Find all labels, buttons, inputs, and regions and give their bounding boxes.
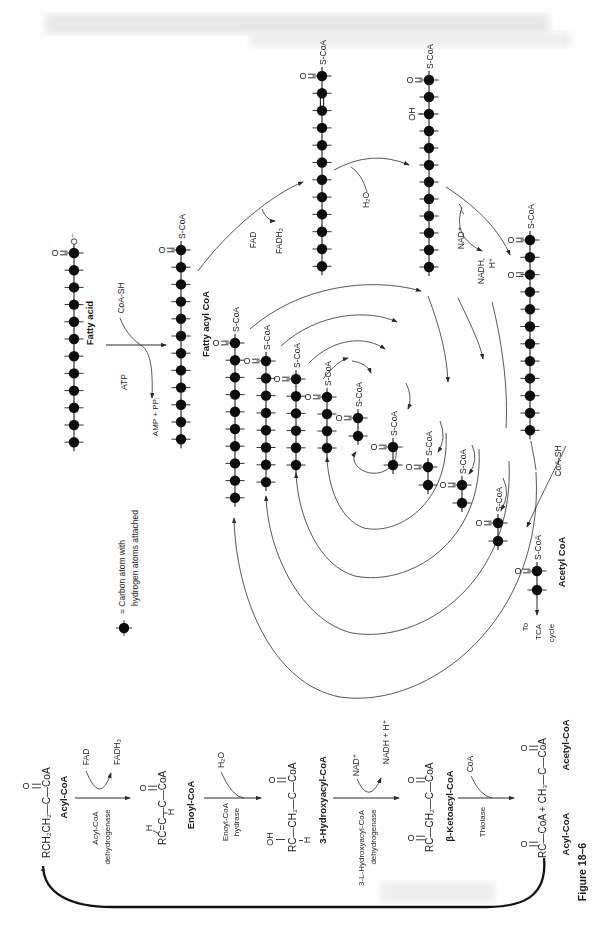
acetyl-coa-label: Acetyl CoA (556, 537, 567, 588)
pathway-coa-label: CoA (465, 755, 475, 772)
pathway-h2o-label: H₂O (216, 752, 226, 768)
enzyme1-line1: Acyl-CoA (91, 811, 100, 845)
step5-o-acetyl: O (520, 743, 527, 753)
ketoacyl-coa-formula: RC—CH₂—C—CoA (424, 762, 435, 852)
step4-o-bottom: O (407, 833, 414, 843)
nadh-label: NADH, (476, 258, 486, 284)
s-coa-label: S-CoA (425, 44, 435, 69)
figure-caption: Figure 18–6 (576, 843, 588, 902)
s-coa-label: S-CoA (424, 431, 434, 456)
enzyme3-line2: dehydrogenase (369, 809, 378, 865)
s-coa-label: S-CoA (533, 535, 543, 560)
hydroxyacyl-coa-chain: S-CoAOOH (406, 44, 438, 276)
step5-o-acyl: O (520, 839, 527, 849)
s-coa-label: S-CoA (458, 449, 468, 474)
enoyl-coa-name: Enoyl-CoA (185, 781, 196, 830)
step2-o: O (139, 783, 146, 793)
acyl-c4-chain: S-CoAO (304, 361, 336, 457)
atp-label: ATP (119, 374, 129, 390)
enoyl-coa-chain: S-CoAO (299, 40, 331, 276)
carbonyl-o-label: O (304, 392, 311, 402)
s-coa-label: S-CoA (526, 204, 536, 229)
to-tca-line3: cycle (547, 623, 556, 642)
product-acetyl-coa-name: Acetyl-CoA (560, 719, 571, 770)
beta-oxidation-figure: O⁻OS-CoAOS-CoAOS-CoAOOHS-CoAOOS-CoAOS-Co… (0, 0, 595, 941)
s-coa-label: S-CoA (494, 487, 504, 512)
step2-h-alpha: H (144, 825, 154, 832)
fatty-acid-label: Fatty acid (84, 301, 95, 346)
acetyl-coa-final: S-CoAO (514, 535, 546, 599)
to-tca-line1: To (521, 622, 530, 631)
carbonyl-o-label: O (243, 356, 250, 366)
step3-o: O (268, 775, 275, 785)
hydroxyacyl-coa-formula: RC—CH₂—C—CoA (287, 762, 298, 852)
carbonyl-o-label: O (273, 374, 280, 384)
s-coa-label: S-CoA (262, 325, 272, 350)
step3-oh: OH (265, 832, 275, 846)
pathway-nad-label: NAD⁺ (351, 754, 361, 776)
spiral-arrows (106, 158, 566, 698)
legend-line1: = Carbon atom with (117, 540, 127, 614)
nad-label: NAD⁺ (456, 227, 466, 249)
keto-o-label: O (507, 270, 514, 280)
carboxylate-o-label: O⁻ (69, 233, 79, 245)
acyl-c10-chain: S-CoAO (212, 307, 244, 507)
carbonyl-o-label: O (51, 248, 58, 258)
legend: = Carbon atom with hydrogen atoms attach… (116, 510, 140, 636)
acetyl-unit-5: S-CoAO (475, 487, 507, 550)
coa-sh-release-label: CoA-SH (553, 445, 563, 476)
legend-line2: hydrogen atoms attached (130, 510, 140, 606)
s-coa-label: S-CoA (318, 40, 328, 65)
fad-label: FAD (248, 232, 258, 249)
amp-ppi-label: AMP + PPᵢ (151, 398, 160, 436)
carbonyl-o-label: O (475, 518, 482, 528)
products-formula: RC—CoA + CH₃—C—CoA (537, 738, 548, 858)
enzyme1-line2: dehydrogenase (103, 809, 112, 865)
acetyl-unit-3: S-CoAO (405, 431, 437, 494)
acyl-c8-chain: S-CoAO (243, 325, 275, 491)
acetyl-unit-4: S-CoAO (439, 449, 471, 512)
s-coa-label: S-CoA (389, 411, 399, 436)
fatty-acid-chain: O⁻O (51, 233, 83, 451)
carbonyl-o-label: O (299, 71, 306, 81)
acetyl-unit-2: S-CoAO (370, 411, 402, 474)
carbonyl-o-label: O (335, 413, 342, 423)
s-coa-label: S-CoA (231, 307, 241, 332)
h2o-label: H₂O (361, 192, 371, 208)
hydroxyacyl-coa-name: 3-Hydroxyacyl-CoA (317, 756, 328, 844)
carbonyl-o-label: O (507, 235, 514, 245)
step1-o: O (22, 781, 29, 791)
step2-h-beta: H (166, 809, 176, 816)
carbonyl-o-label: O (158, 245, 165, 255)
carbonyl-o-label: O (514, 566, 521, 576)
carbonyl-o-label: O (212, 338, 219, 348)
acyl-c6-chain: S-CoAO (273, 343, 305, 474)
ketoacyl-coa-name: β-Ketoacyl-CoA (444, 770, 455, 841)
product-acyl-coa-name: Acyl-CoA (560, 812, 571, 855)
enoyl-coa-formula: RC=C—C—CoA (157, 770, 168, 845)
acyl-coa-formula: RCH₂CH₂—C—CoA (41, 767, 52, 858)
figure-page: O⁻OS-CoAOS-CoAOS-CoAOOHS-CoAOOS-CoAOS-Co… (0, 0, 595, 941)
page-showthrough (45, 14, 570, 902)
enzyme2-line2: hydrase (232, 807, 241, 836)
enzyme4-thiolase: Thiolase (478, 806, 487, 837)
to-tca-line2: TCA (534, 623, 543, 640)
enzyme2-line1: Enoyl-CoA (221, 802, 230, 841)
carbonyl-o-label: O (405, 462, 412, 472)
coa-sh-in-label: CoA-SH (116, 282, 126, 313)
step4-o-top: O (407, 775, 414, 785)
carbon-chains: O⁻OS-CoAOS-CoAOS-CoAOOHS-CoAOOS-CoAOS-Co… (51, 40, 546, 599)
carbonyl-o-label: O (406, 75, 413, 85)
s-coa-label: S-CoA (177, 214, 187, 239)
acetyl-unit-1: S-CoAO (335, 382, 367, 445)
step3-h: H (302, 837, 312, 844)
fatty-acyl-coa-chain: S-CoAO (158, 214, 190, 449)
h-plus-label: H⁺ (487, 258, 497, 269)
enzyme3-line1: 3-L-Hydroxyacyl-CoA (357, 809, 366, 886)
carbonyl-o-label: O (370, 442, 377, 452)
s-coa-label: S-CoA (354, 382, 364, 407)
pathway-fadh2-label: FADH₂ (112, 739, 122, 765)
hydroxyl-oh-label: OH (407, 107, 417, 121)
pathway-nadh-label: NADH + H⁺ (381, 720, 391, 764)
carbonyl-o-label: O (439, 480, 446, 490)
